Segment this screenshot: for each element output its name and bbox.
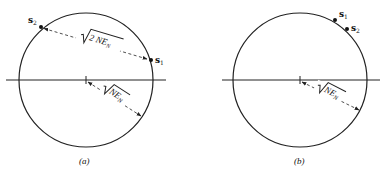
- label-s2-b: s2: [351, 23, 360, 34]
- caption-b: (b): [294, 156, 305, 166]
- panel-b: NEN s1 s2 (b): [222, 9, 380, 166]
- signal-constellation-figure: 2 NEN NEN s2 s1 (a) NEN s1 s2 (b: [0, 0, 384, 171]
- signal-point-s1-b: [333, 18, 337, 22]
- panel-a: 2 NEN NEN s2 s1 (a): [6, 13, 166, 166]
- label-s2-a: s2: [28, 15, 37, 26]
- caption-a: (a): [79, 156, 90, 166]
- label-s1-b: s1: [339, 9, 348, 20]
- signal-point-s2-b: [345, 27, 349, 31]
- label-s1-a: s1: [155, 55, 164, 66]
- signal-point-s1-a: [149, 58, 153, 62]
- signal-point-s2-a: [39, 25, 43, 29]
